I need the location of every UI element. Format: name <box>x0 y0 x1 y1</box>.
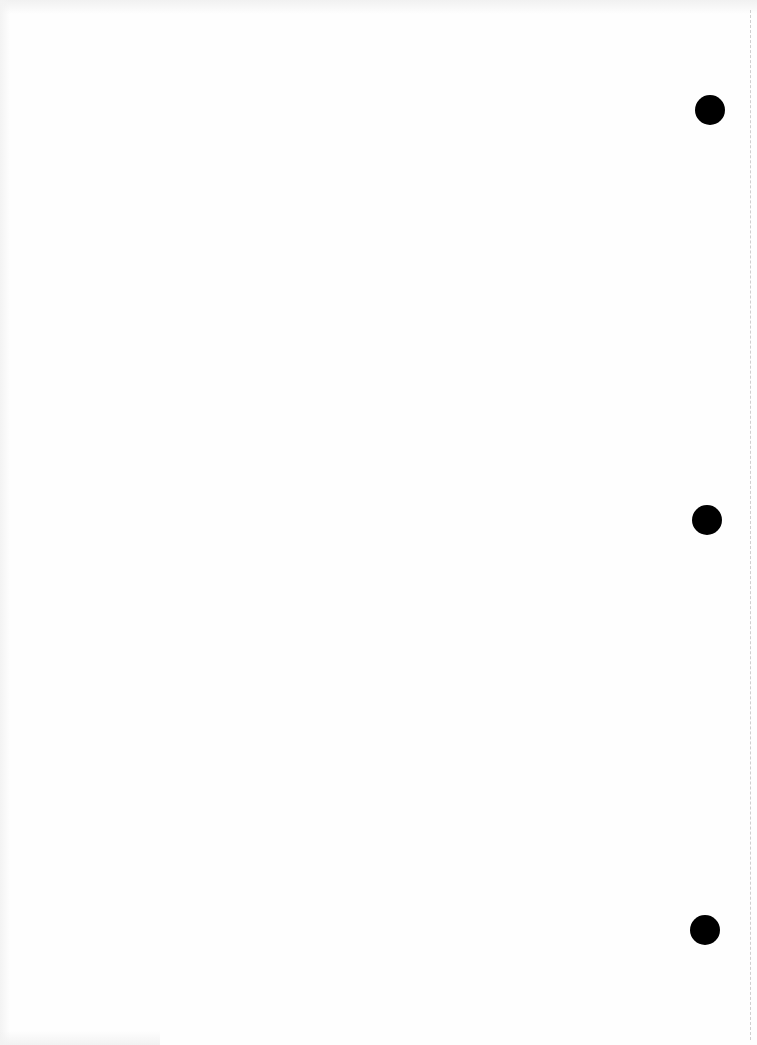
scan-edge-shadow-bottom <box>0 1031 160 1045</box>
perforation-line <box>750 10 751 1040</box>
punch-hole-top <box>695 95 725 125</box>
punch-hole-middle <box>692 505 722 535</box>
scan-edge-shadow-left <box>0 0 10 1045</box>
scanned-page <box>0 0 757 1045</box>
scan-edge-shadow-top <box>0 0 757 14</box>
punch-hole-bottom <box>690 915 720 945</box>
